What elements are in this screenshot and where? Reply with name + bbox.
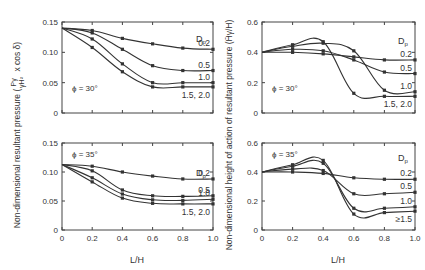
phi-annotation: ϕ = 30° xyxy=(272,84,298,93)
data-marker xyxy=(91,46,94,49)
series-label: 1.5, 2.0 xyxy=(182,90,211,100)
data-marker xyxy=(413,178,416,181)
data-marker xyxy=(352,92,355,95)
series-label: 1.0 xyxy=(400,196,412,206)
data-marker xyxy=(291,163,294,166)
data-marker xyxy=(352,49,355,52)
data-marker xyxy=(352,176,355,179)
y-tick-label: 0 xyxy=(254,109,259,118)
data-marker xyxy=(383,211,386,214)
data-marker xyxy=(413,191,416,194)
data-marker xyxy=(413,210,416,213)
data-marker xyxy=(383,178,386,181)
x-tick-label: 0.6 xyxy=(348,234,360,243)
data-marker xyxy=(383,89,386,92)
series-label: 1.0 xyxy=(198,188,210,198)
panel-left-top: 00.050.100.15ϕ = 30°Dp0.20.51.01.5, 2.0 xyxy=(42,18,214,118)
x-tick-label: 0.8 xyxy=(379,234,391,243)
data-marker xyxy=(211,177,214,180)
data-marker xyxy=(151,198,154,201)
y-tick-label: 0.6 xyxy=(247,139,259,148)
data-marker xyxy=(383,70,386,73)
data-marker xyxy=(121,197,124,200)
y-tick-label: 0.4 xyxy=(247,168,259,177)
data-marker xyxy=(352,212,355,215)
series-label: 1.5, 2.0 xyxy=(182,207,211,217)
data-marker xyxy=(151,81,154,84)
data-marker xyxy=(322,40,325,43)
data-marker xyxy=(151,174,154,177)
data-marker xyxy=(151,42,154,45)
data-marker xyxy=(322,172,325,175)
series-label: 1.0 xyxy=(400,81,412,91)
right-x-axis-label: L/H xyxy=(331,255,345,265)
data-marker xyxy=(121,70,124,73)
data-marker xyxy=(322,52,325,55)
left-x-axis-label: L/H xyxy=(130,255,144,265)
legend-title: Dp xyxy=(398,36,409,47)
chart-figure: Non-dimensional resultant pressure ( Pγ … xyxy=(0,0,425,270)
y-tick-label: 0.4 xyxy=(247,48,259,57)
data-marker xyxy=(91,169,94,172)
data-marker xyxy=(181,199,184,202)
data-marker xyxy=(91,176,94,179)
series-0-2: 0.2 xyxy=(262,168,417,181)
series-label: 0.5 xyxy=(400,181,412,191)
x-tick-label: 1.0 xyxy=(207,234,219,243)
series-0-5: 0.5 xyxy=(62,164,215,197)
phi-annotation: ϕ = 35° xyxy=(72,150,98,159)
data-marker xyxy=(181,195,184,198)
data-marker xyxy=(181,46,184,49)
x-tick-label: 0 xyxy=(260,234,265,243)
data-marker xyxy=(121,48,124,51)
panel-right-top: 00.20.40.6ϕ = 30°Dp0.20.51.01.5, 2.0 xyxy=(247,18,417,118)
data-marker xyxy=(383,95,386,98)
data-marker xyxy=(291,170,294,173)
y-tick-label: 0 xyxy=(54,109,59,118)
data-marker xyxy=(413,95,416,98)
data-marker xyxy=(91,37,94,40)
y-tick-label: 0 xyxy=(254,226,259,235)
data-marker xyxy=(352,58,355,61)
data-marker xyxy=(291,43,294,46)
series-label: 0.2 xyxy=(400,49,412,59)
data-marker xyxy=(352,55,355,58)
series-label: 0.5 xyxy=(400,63,412,73)
data-marker xyxy=(211,202,214,205)
data-marker xyxy=(352,192,355,195)
data-marker xyxy=(151,194,154,197)
data-marker xyxy=(121,37,124,40)
svg-text:Non-dimensional resultant pres: Non-dimensional resultant pressure ( Pγ … xyxy=(8,42,26,228)
data-marker xyxy=(413,205,416,208)
data-marker xyxy=(383,192,386,195)
data-marker xyxy=(151,64,154,67)
y-tick-label: 0.2 xyxy=(247,79,259,88)
data-marker xyxy=(91,31,94,34)
data-marker xyxy=(322,49,325,52)
data-marker xyxy=(151,85,154,88)
data-marker xyxy=(322,159,325,162)
data-marker xyxy=(181,202,184,205)
series-label: ≥1.5 xyxy=(396,214,413,224)
data-marker xyxy=(151,202,154,205)
data-marker xyxy=(211,198,214,201)
x-tick-label: 0.4 xyxy=(318,234,330,243)
legend-title: Dp xyxy=(398,153,409,164)
series-label: 1.5, 2.0 xyxy=(384,99,413,109)
y-tick-label: 0.10 xyxy=(42,48,58,57)
data-marker xyxy=(211,69,214,72)
data-marker xyxy=(211,194,214,197)
series-label: 0.5 xyxy=(198,60,210,70)
y-tick-label: 0.2 xyxy=(247,197,259,206)
y-tick-label: 0 xyxy=(54,226,59,235)
data-marker xyxy=(211,81,214,84)
data-marker xyxy=(383,207,386,210)
y-tick-label: 0.05 xyxy=(42,79,58,88)
y-tick-label: 0.15 xyxy=(42,139,58,148)
y-tick-label: 0.15 xyxy=(42,18,58,27)
series-1-0: 1.0 xyxy=(262,160,417,212)
data-marker xyxy=(383,58,386,61)
y-tick-label: 0.05 xyxy=(42,197,58,206)
data-marker xyxy=(413,90,416,93)
data-marker xyxy=(413,72,416,75)
